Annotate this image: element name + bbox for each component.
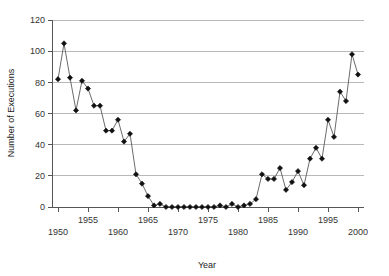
data-point-1951	[61, 41, 66, 46]
data-point-1967	[157, 201, 162, 206]
y-tick-label-40: 40	[35, 140, 45, 150]
data-point-1974	[199, 204, 204, 209]
data-point-1980	[235, 204, 240, 209]
data-point-1994	[319, 156, 324, 161]
data-point-1969	[169, 204, 174, 209]
data-point-1971	[181, 204, 186, 209]
x-tick-label-1965: 1965	[138, 215, 158, 225]
y-tick-label-80: 80	[35, 78, 45, 88]
data-point-1960	[115, 117, 120, 122]
x-tick-label-1960: 1960	[108, 227, 128, 237]
data-point-1964	[139, 181, 144, 186]
data-point-1972	[187, 204, 192, 209]
data-point-1978	[223, 204, 228, 209]
data-point-1973	[193, 204, 198, 209]
x-tick-label-1970: 1970	[168, 227, 188, 237]
x-tick-label-1975: 1975	[198, 215, 218, 225]
tick-marks-group	[48, 20, 358, 212]
x-tick-label-1995: 1995	[318, 215, 338, 225]
data-point-1990	[295, 169, 300, 174]
data-point-1975	[205, 204, 210, 209]
data-point-1965	[145, 193, 150, 198]
data-point-1953	[73, 108, 78, 113]
x-tick-label-1980: 1980	[228, 227, 248, 237]
data-point-1959	[109, 128, 114, 133]
executions-line-chart: 020406080100120 195019551960196519701975…	[0, 0, 389, 276]
data-point-1957	[97, 103, 102, 108]
gridlines-group	[52, 20, 364, 176]
data-point-2000	[355, 72, 360, 77]
data-point-1986	[271, 176, 276, 181]
y-tick-label-100: 100	[30, 46, 45, 56]
data-point-1976	[211, 204, 216, 209]
y-tick-label-120: 120	[30, 15, 45, 25]
data-point-1998	[343, 98, 348, 103]
y-tick-labels-group: 020406080100120	[30, 15, 45, 212]
x-tick-label-1990: 1990	[288, 227, 308, 237]
data-point-1993	[313, 145, 318, 150]
data-point-1995	[325, 117, 330, 122]
y-axis-title: Number of Executions	[6, 68, 16, 157]
x-tick-label-1950: 1950	[48, 227, 68, 237]
y-tick-label-20: 20	[35, 171, 45, 181]
chart-container: 020406080100120 195019551960196519701975…	[0, 0, 389, 276]
y-tick-label-0: 0	[40, 202, 45, 212]
data-point-1992	[307, 156, 312, 161]
data-point-1979	[229, 201, 234, 206]
data-point-1997	[337, 89, 342, 94]
x-tick-label-1955: 1955	[78, 215, 98, 225]
data-point-1958	[103, 128, 108, 133]
x-tick-label-2000: 2000	[348, 227, 368, 237]
x-tick-label-1985: 1985	[258, 215, 278, 225]
data-point-1987	[277, 165, 282, 170]
data-point-1968	[163, 204, 168, 209]
data-point-1991	[301, 183, 306, 188]
data-point-1999	[349, 52, 354, 57]
data-point-markers-group	[55, 41, 360, 210]
x-tick-labels-group: 1950195519601965197019751980198519901995…	[48, 215, 368, 237]
data-point-1956	[91, 103, 96, 108]
executions-series-line	[58, 43, 358, 207]
data-point-1996	[331, 134, 336, 139]
x-axis-title: Year	[198, 260, 216, 270]
data-point-1950	[55, 77, 60, 82]
data-point-1952	[67, 75, 72, 80]
data-point-1970	[175, 204, 180, 209]
y-tick-label-60: 60	[35, 109, 45, 119]
